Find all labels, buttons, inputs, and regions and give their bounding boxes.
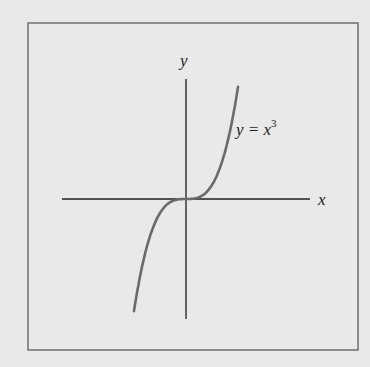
cubic-function-diagram: y x y = x3 [0,0,370,367]
figure-frame [28,23,358,350]
x-axis-label: x [317,190,326,209]
curve-label: y = x3 [234,117,277,139]
y-axis-label: y [178,51,188,70]
curve-label-base: y = x [234,120,272,139]
curve-label-exponent: 3 [271,117,277,129]
